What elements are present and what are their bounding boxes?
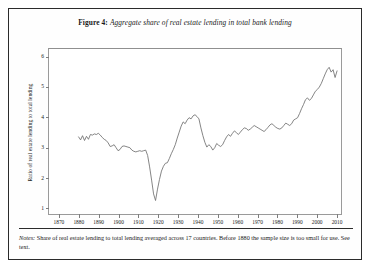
series-line-ratio (79, 67, 337, 200)
y-tick-3: 3 (33, 148, 49, 149)
notes-label: Notes: (19, 234, 35, 241)
y-tick-label: 1 (41, 204, 44, 212)
figure-title: Figure 4: Aggregate share of real estate… (9, 18, 361, 28)
x-tick-mark (79, 214, 80, 218)
x-tick-mark (99, 214, 100, 218)
y-tick-1: 1 (33, 208, 49, 209)
y-tick-6: 6 (33, 57, 49, 58)
y-tick-2: 2 (33, 178, 49, 179)
x-tick-mark (178, 214, 179, 218)
figure-container: Figure 4: Aggregate share of real estate… (8, 8, 362, 260)
line-series-svg (49, 49, 341, 214)
x-tick-mark (258, 214, 259, 218)
x-tick-mark (138, 214, 139, 218)
y-tick-4: 4 (33, 117, 49, 118)
x-tick-mark (59, 214, 60, 218)
chart-plot-area: Ratio of real estate lending to total le… (48, 48, 342, 215)
y-tick-label: 4 (41, 113, 44, 121)
x-tick-mark (337, 214, 338, 218)
y-tick-label: 3 (41, 143, 44, 151)
x-tick-mark (238, 214, 239, 218)
x-tick-mark (158, 214, 159, 218)
y-tick-label: 2 (41, 174, 44, 182)
y-tick-label: 5 (41, 82, 44, 90)
x-tick-mark (218, 214, 219, 218)
figure-caption: Aggregate share of real estate lending i… (110, 18, 292, 27)
x-tick-label: 2010 (322, 218, 352, 226)
x-tick-mark (317, 214, 318, 218)
y-axis-title: Ratio of real estate lending to total le… (27, 0, 39, 49)
figure-notes: Notes: Share of real estate lending to t… (19, 228, 353, 251)
y-tick-label: 6 (41, 52, 44, 60)
figure-number: Figure 4: (78, 18, 108, 27)
y-tick-5: 5 (33, 87, 49, 88)
x-tick-mark (277, 214, 278, 218)
x-tick-mark (198, 214, 199, 218)
x-tick-mark (119, 214, 120, 218)
x-tick-mark (297, 214, 298, 218)
notes-text: Share of real estate lending to total le… (19, 234, 350, 250)
